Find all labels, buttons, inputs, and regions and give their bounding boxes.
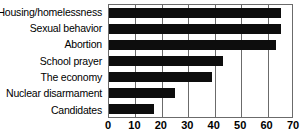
bar-row (109, 69, 292, 85)
bar (109, 88, 175, 98)
bar (109, 40, 276, 50)
category-label: Sexual behavior (0, 20, 105, 36)
bar (109, 72, 212, 82)
category-label: Housing/homelessness (0, 4, 105, 20)
x-tick-label: 0 (105, 120, 111, 131)
x-tick-label: 30 (181, 120, 193, 131)
category-label: School prayer (0, 53, 105, 69)
bar-row (109, 37, 292, 53)
bar-chart: Housing/homelessnessSexual behaviorAbort… (0, 0, 300, 140)
bar-row (109, 21, 292, 37)
x-axis-tick-labels: 010203040506070 (108, 120, 293, 138)
x-tick-label: 60 (260, 120, 272, 131)
bar-row (109, 5, 292, 21)
bar-row (109, 101, 292, 117)
bar (109, 104, 154, 114)
bar-row (109, 53, 292, 69)
plot-area (108, 4, 293, 118)
bar-series (109, 5, 292, 117)
bar (109, 8, 281, 18)
category-label: Candidates (0, 102, 105, 118)
x-tick-label: 40 (208, 120, 220, 131)
category-label: Nuclear disarmament (0, 85, 105, 101)
category-label: Abortion (0, 37, 105, 53)
category-axis-labels: Housing/homelessnessSexual behaviorAbort… (0, 4, 105, 118)
x-tick-label: 10 (128, 120, 140, 131)
x-tick-label: 70 (287, 120, 299, 131)
x-tick-label: 20 (155, 120, 167, 131)
bar-row (109, 85, 292, 101)
bar (109, 56, 223, 66)
x-tick-label: 50 (234, 120, 246, 131)
bar (109, 24, 281, 34)
category-label: The economy (0, 69, 105, 85)
